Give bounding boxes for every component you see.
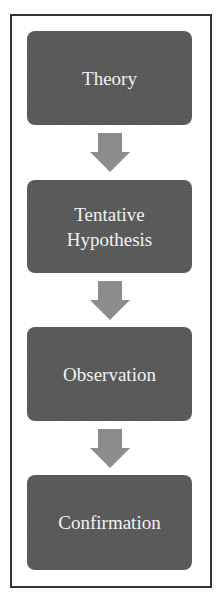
step-label-line-2: Hypothesis <box>61 227 159 252</box>
down-arrow-icon <box>90 429 130 468</box>
step-label-line-1: Tentative <box>61 202 159 227</box>
down-arrow-icon <box>90 133 130 172</box>
step-label: Observation <box>57 362 162 387</box>
step-confirmation: Confirmation <box>27 475 192 570</box>
down-arrow-icon <box>90 281 130 320</box>
step-theory: Theory <box>27 31 192 125</box>
step-observation: Observation <box>27 327 192 421</box>
step-label: Theory <box>76 66 143 91</box>
step-label: Confirmation <box>52 510 166 535</box>
step-tentative-hypothesis: Tentative Hypothesis <box>27 180 192 273</box>
